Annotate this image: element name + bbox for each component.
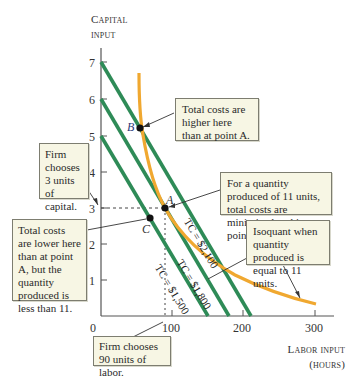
note-higher-text: Total costs are higher here than at poin… <box>182 103 250 141</box>
y-tick-6: 6 <box>89 93 95 108</box>
point-b <box>136 124 143 131</box>
note-cost-minimized: For a quantity produced of 11 units, tot… <box>220 172 332 215</box>
arrowhead-higher <box>143 122 150 127</box>
note-lower-costs: Total costs are lower here than at point… <box>12 219 87 301</box>
leader-labor <box>133 322 163 337</box>
y-tick-5: 5 <box>89 130 95 145</box>
note-capital-text: Firm chooses 3 units of capital. <box>45 148 80 212</box>
y-ticks <box>101 62 107 280</box>
origin-label: 0 <box>90 321 96 336</box>
y-tick-3: 3 <box>89 202 95 217</box>
y-axis-title-line2: input <box>91 27 128 42</box>
x-ticks <box>172 310 315 316</box>
leader-lower <box>87 219 146 230</box>
note-capital-choice: Firm chooses 3 units of capital. <box>39 143 89 199</box>
note-labor-choice: Firm chooses 90 units of labor. <box>93 336 171 366</box>
y-tick-2: 2 <box>89 238 95 253</box>
note-lower-text: Total costs are lower here than at point… <box>18 224 81 314</box>
x-axis-title-line2: (hours) <box>283 357 345 372</box>
point-b-label: B <box>127 120 134 135</box>
x-axis-title-line1: Labor input <box>283 342 345 357</box>
x-axis-title: Labor input (hours) <box>283 342 345 372</box>
point-c <box>146 214 153 221</box>
note-isoquant: Isoquant when quantity produced is equal… <box>246 220 330 265</box>
x-tick-300: 300 <box>305 321 323 336</box>
y-axis-title: Capital input <box>91 12 128 42</box>
x-tick-100: 100 <box>162 321 180 336</box>
arrowhead-isoquant <box>295 291 300 298</box>
point-c-label: C <box>142 222 150 237</box>
y-axis-title-line1: Capital <box>91 12 128 27</box>
x-tick-200: 200 <box>233 321 251 336</box>
point-a-label: A <box>166 193 173 208</box>
note-higher-costs: Total costs are higher here than at poin… <box>175 98 259 141</box>
y-tick-1: 1 <box>89 274 95 289</box>
y-tick-4: 4 <box>89 166 95 181</box>
y-tick-7: 7 <box>89 56 95 71</box>
